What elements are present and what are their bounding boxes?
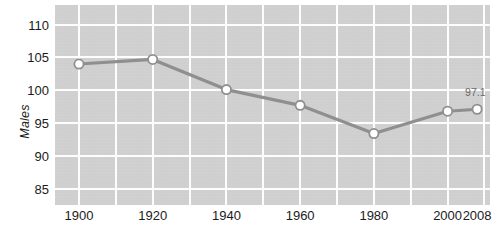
y-axis-tick-label: 90	[3, 150, 49, 163]
data-point-marker	[222, 85, 231, 94]
x-axis-tick-label: 1960	[270, 208, 330, 224]
y-axis-tick-label: 110	[3, 19, 49, 32]
data-point-marker	[369, 129, 378, 138]
y-axis-tick-label: 105	[3, 51, 49, 64]
y-axis-tick-label: 85	[3, 183, 49, 196]
data-point-marker	[443, 107, 452, 116]
data-point-marker	[148, 55, 157, 64]
y-axis-tick-labels: 110105100959085	[0, 0, 49, 243]
series-line	[79, 59, 477, 133]
x-axis-tick-label: 1920	[123, 208, 183, 224]
plot-area	[55, 5, 490, 205]
data-point-marker	[473, 105, 482, 114]
x-axis-tick-label: 2008	[447, 208, 503, 224]
data-point-marker	[74, 59, 83, 68]
data-point-marker	[296, 101, 305, 110]
y-axis-tick-label: 95	[3, 117, 49, 130]
data-label-2008: 97.1	[465, 87, 485, 98]
x-axis-tick-label: 1900	[49, 208, 109, 224]
x-axis-tick-label: 1940	[196, 208, 256, 224]
x-axis-tick-label: 1980	[344, 208, 404, 224]
x-axis-tick-labels: 1900192019401960198020002008	[0, 208, 503, 238]
line-chart-figure: Males 110105100959085 97.1 1900192019401…	[0, 0, 503, 243]
y-axis-tick-label: 100	[3, 84, 49, 97]
data-series-males	[55, 5, 490, 205]
